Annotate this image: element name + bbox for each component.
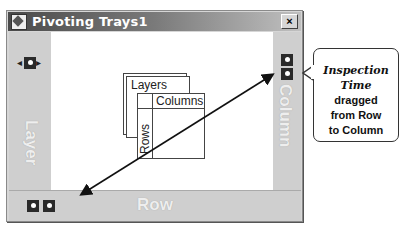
callout-text-from: from Row — [314, 108, 398, 123]
callout-pointer-mask — [311, 65, 315, 79]
callout-field-name-2: Time — [340, 79, 371, 92]
callout-annotation: Inspection Time dragged from Row to Colu… — [313, 48, 399, 142]
callout-text-dragged: dragged — [314, 93, 398, 108]
callout-field-name: Inspection — [323, 64, 388, 77]
callout-text-to: to Column — [314, 123, 398, 138]
